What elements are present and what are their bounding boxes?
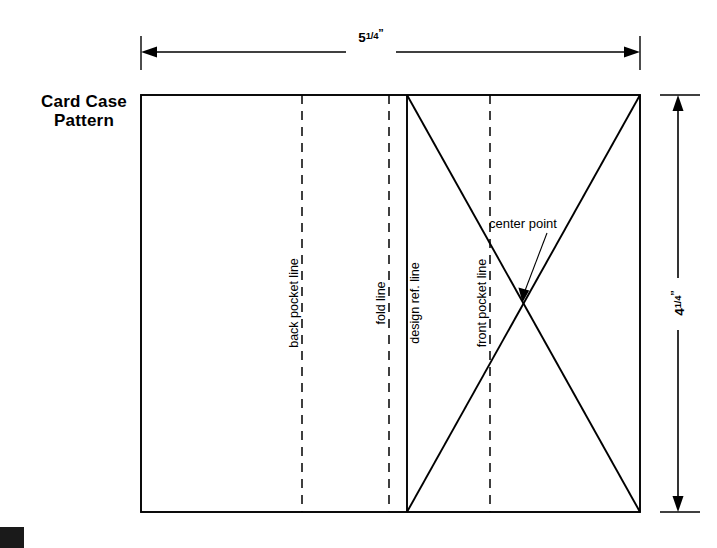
center-point-label: center point	[489, 217, 557, 232]
page-title-line-2: Pattern	[30, 111, 138, 130]
height-inch-mark: ”	[669, 290, 681, 296]
dimension-arrow-top	[673, 95, 684, 111]
page-title-line-1: Card Case	[30, 92, 138, 111]
dimension-arrow-left	[141, 47, 157, 58]
fold-line-label: fold line	[374, 281, 388, 324]
width-dimension-label: 51/4”	[358, 27, 384, 45]
width-whole-number: 5	[358, 30, 366, 45]
height-denominator: 4	[672, 296, 683, 301]
width-inch-mark: ”	[378, 27, 384, 39]
dimension-arrow-right	[624, 47, 640, 58]
page-title: Card Case Pattern	[30, 92, 138, 130]
height-fraction: 1/4	[673, 296, 684, 309]
design-ref-line-label: design ref. line	[408, 262, 422, 343]
back-pocket-line-label: back pocket line	[287, 258, 301, 348]
dimension-arrow-bottom	[673, 496, 684, 512]
width-numerator: 1	[366, 30, 371, 41]
registration-block	[0, 527, 24, 548]
width-fraction: 1/4	[366, 31, 379, 42]
pattern-rectangle	[141, 95, 640, 512]
height-whole-number: 4	[672, 308, 687, 316]
front-pocket-line-label: front pocket line	[475, 259, 489, 347]
height-dimension-label: 41/4”	[669, 290, 687, 316]
diagram-graphics	[0, 0, 717, 548]
pattern-diagram: Card Case Pattern 51/4” 41/4” back pocke…	[0, 0, 717, 548]
height-numerator: 1	[672, 303, 683, 308]
